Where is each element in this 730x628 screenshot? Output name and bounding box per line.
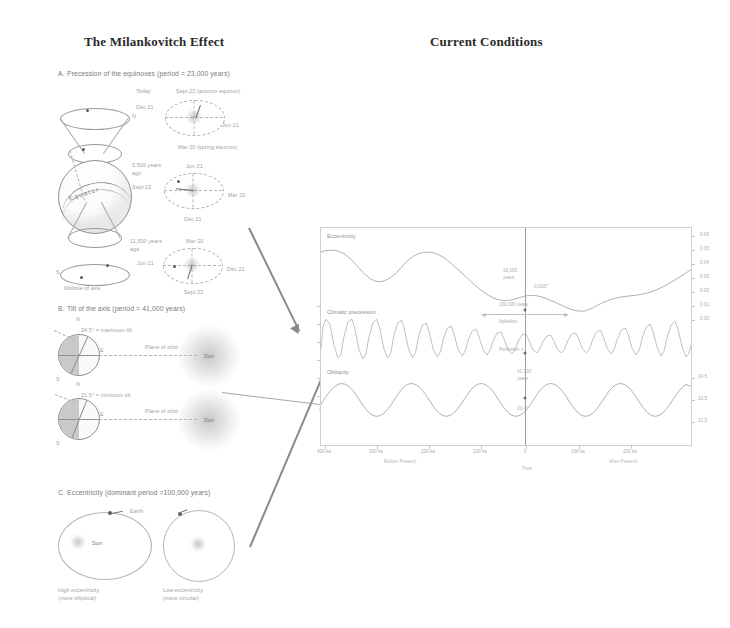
orbit-2-time-2: ago: [132, 170, 141, 176]
orbit-3-time: 11,500 years: [130, 238, 162, 244]
ytick-ecc-3: 0.03: [700, 274, 709, 279]
annotation-eccentricity-value: 0.0167: [534, 284, 548, 289]
series-label-eccentricity: Eccentricity: [327, 233, 356, 239]
orbit-1-sun: [186, 109, 202, 125]
tilt-min-east: E: [100, 411, 104, 417]
low-ecc-caption-2: (more circular): [163, 595, 199, 601]
high-ecc-caption: High eccentricity: [58, 587, 99, 593]
orbit-2-top-label: Jun 21: [186, 163, 203, 169]
sun-min-tilt-label: Sun: [204, 417, 215, 423]
earth-min-tilt: [58, 398, 100, 440]
xtick-5: 100 ka: [571, 449, 585, 454]
x-axis-after-present: After Present: [609, 459, 637, 464]
annotation-precession-period: 19,000: [503, 268, 517, 273]
ytick-ecc-5: 0.01: [700, 302, 709, 307]
tilt-max-angle: 24.5° = maximum tilt: [81, 327, 132, 333]
x-axis-before-present: Before Present: [384, 459, 416, 464]
orbit-1-left-label: Dec 21: [136, 104, 154, 110]
section-a-label: A.: [58, 70, 65, 77]
annotation-perihelion: Perihelion ≠: [499, 347, 523, 352]
orbit-2-bottom-label: Dec 21: [184, 216, 202, 222]
ytick-obl-2: 22.5: [698, 418, 707, 423]
sun-max-tilt-label: Sun: [204, 353, 215, 359]
xtick-2: 200 ka: [421, 449, 435, 454]
xtick-4: 0: [524, 449, 527, 454]
section-c-label: C.: [58, 489, 65, 496]
present-marker-obliquity: [524, 397, 527, 400]
curve-obliquity: [321, 384, 691, 417]
orbit-2-time: 5,500 years: [132, 162, 161, 168]
chart-curves: [321, 228, 691, 445]
annotation-obliquity-period-2: years: [517, 376, 528, 381]
ytick-obl-1: 23.5: [698, 396, 707, 401]
annotation-obliquity-period: 41,000: [517, 369, 531, 374]
annotation-aphelion: Aphelion: [499, 319, 517, 324]
sun-high-ecc: [70, 534, 86, 550]
orbit-1-time: Today: [136, 88, 151, 94]
orbit-3-time-2: ago: [130, 246, 139, 252]
section-c-title: Eccentricity (dominant period =100,000 y…: [67, 489, 210, 496]
tilt-max-east: E: [100, 347, 104, 353]
xtick-0: 400 ka: [317, 449, 331, 454]
series-label-obliquity: Obliquity: [327, 369, 349, 375]
ytick-ecc-1: 0.05: [700, 246, 709, 251]
globe-north-label: N: [132, 113, 136, 119]
precession-cone-bottom: [60, 228, 128, 284]
orbit-1-right-label: Jun 21: [222, 122, 239, 128]
ytick-ecc-0: 0.06: [700, 232, 709, 237]
ytick-ecc-6: 0.00: [700, 316, 709, 321]
milankovitch-timeseries-chart: Eccentricity Climatic precession Obliqui…: [320, 227, 692, 446]
orbit-1-bottom-label: Mar 20 (spring equinox): [178, 144, 237, 150]
tilt-min-north: N: [76, 381, 80, 387]
orbit-3-right-label: Dec 21: [227, 266, 245, 272]
section-b-title: Tilt of the axis (period = 41,000 years): [67, 305, 185, 312]
orbit-1-top-label: Sept 22 (autumn equinox): [176, 88, 240, 94]
xtick-1: 300 ka: [369, 449, 383, 454]
arrow-precession-to-chart: [248, 228, 300, 332]
low-ecc-caption: Low eccentricity: [163, 587, 203, 593]
curve-climatic-precession: [321, 319, 691, 359]
ytick-ecc-2: 0.04: [700, 260, 709, 265]
page-title-right: Current Conditions: [430, 34, 543, 50]
ytick-obl-0: 24.5: [698, 374, 707, 379]
high-ecc-caption-2: (more elliptical): [58, 595, 96, 601]
annotation-eccentricity-period: 100,000 years: [499, 302, 528, 307]
earth-max-tilt: [58, 334, 100, 376]
page-title-left: The Milankovitch Effect: [84, 34, 224, 50]
wobble-of-axis-label: Wobble of axis: [64, 285, 101, 291]
ytick-ecc-4: 0.02: [700, 288, 709, 293]
tilt-max-north: N: [76, 316, 80, 322]
tilt-max-plane-label: Plane of orbit: [145, 344, 178, 350]
present-day-line: [525, 228, 526, 445]
section-b-label: B.: [58, 305, 65, 312]
present-marker-precession: [524, 351, 527, 354]
section-a-title: Precession of the equinoxes (period = 23…: [67, 70, 230, 77]
xtick-3: 100 ka: [473, 449, 487, 454]
present-marker-eccentricity: [524, 309, 527, 312]
globe-south-label: S: [56, 269, 60, 275]
tilt-min-angle: 21.5° = minimum tilt: [81, 392, 131, 398]
orbit-3-top-label: Mar 20: [186, 238, 203, 244]
x-axis-title: Time: [522, 466, 532, 471]
orbit-3-left-label: Jun 21: [137, 260, 154, 266]
sun-high-ecc-label: Sun: [92, 540, 103, 546]
orbit-2-left-label: Sept 22: [132, 184, 151, 190]
xtick-6: 200 ka: [623, 449, 637, 454]
annotation-precession-period-2: years: [503, 275, 514, 280]
sun-low-ecc: [190, 536, 206, 552]
tilt-min-plane-label: Plane of orbit: [145, 408, 178, 414]
tilt-max-south: S: [56, 376, 60, 382]
poster-canvas: The Milankovitch Effect Current Conditio…: [0, 0, 730, 628]
series-label-climatic-precession: Climatic precession: [327, 309, 376, 315]
annotation-obliquity-value: 23.4°: [517, 406, 528, 411]
orbit-2-right-label: Mar 20: [228, 192, 245, 198]
eccentricity-period-measure: [482, 314, 568, 315]
tilt-min-south: S: [56, 440, 60, 446]
earth-label-high-ecc: Earth: [130, 508, 143, 514]
orbit-3-bottom-label: Sept 22: [184, 289, 203, 295]
